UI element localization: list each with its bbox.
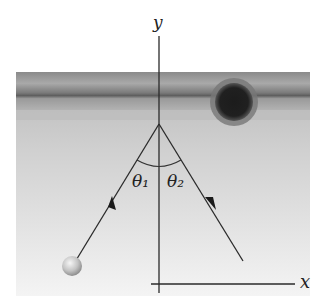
theta1-label: θ₁: [132, 171, 149, 191]
pocket-hole: [215, 83, 253, 121]
x-axis-label: x: [300, 271, 310, 292]
y-axis-label: y: [153, 12, 163, 32]
reflection-diagram: [0, 0, 326, 304]
theta2-label: θ₂: [167, 171, 184, 191]
ball: [62, 256, 82, 276]
cushion-wall: [16, 72, 310, 110]
